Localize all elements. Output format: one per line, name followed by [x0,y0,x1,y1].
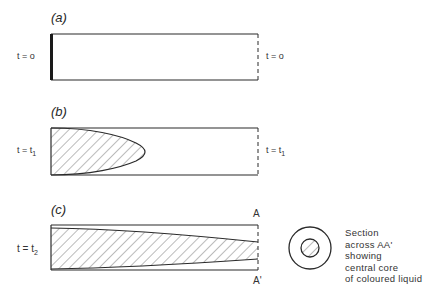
coloured-liquid-front [51,128,145,175]
time-label-a-left: t = o [17,51,35,61]
time-label-b-left: t = t1 [17,145,36,157]
time-label-c-left: t = t2 [17,243,38,256]
caption-line: across AA' [345,239,422,251]
central-core-circle [301,239,319,257]
tube-panel-c [51,225,258,270]
caption-line: central core [345,262,422,274]
time-label-b-right: t = t1 [266,145,285,157]
section-marker-a-prime: A' [253,275,262,286]
tube-panel-a [51,34,258,80]
section-caption: Section across AA' showing central core … [345,227,422,285]
time-label-a-right: t = o [266,51,284,61]
caption-line: Section [345,227,422,239]
caption-line: showing [345,250,422,262]
panel-label-c: (c) [51,202,66,217]
tube-panel-b [51,128,258,175]
panel-label-a: (a) [51,10,67,25]
coloured-liquid-core [51,228,258,269]
caption-line: of coloured liquid [345,273,422,285]
section-marker-a: A [253,208,260,219]
panel-label-b: (b) [51,104,67,119]
cross-section-view [289,227,331,269]
